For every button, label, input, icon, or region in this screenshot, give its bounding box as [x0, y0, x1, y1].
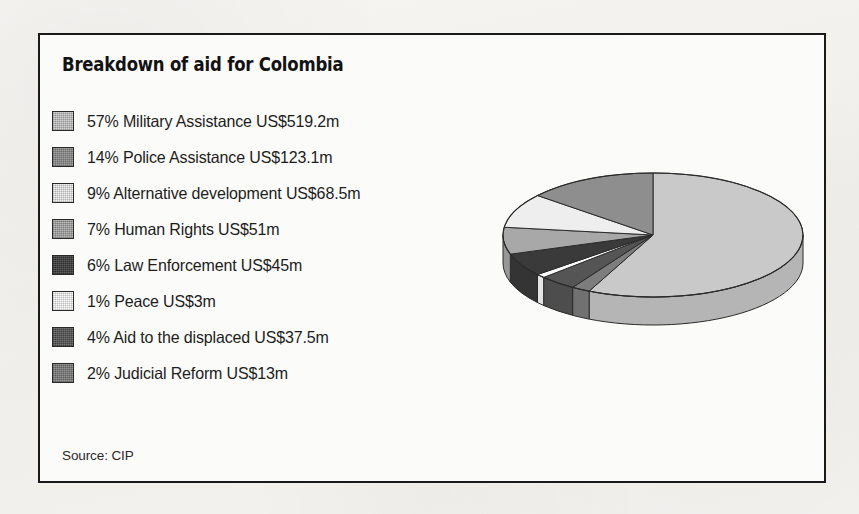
list-item[interactable]: 57% Military Assistance US$519.2m: [52, 103, 452, 139]
legend-label: 6% Law Enforcement US$45m: [87, 256, 302, 275]
figure-frame: Breakdown of aid for Colombia 57% Milita…: [38, 33, 826, 483]
pie-wall-segment: [573, 287, 590, 319]
list-item[interactable]: 4% Aid to the displaced US$37.5m: [52, 319, 452, 355]
list-item[interactable]: 14% Police Assistance US$123.1m: [52, 139, 452, 175]
pie-chart: [468, 123, 818, 353]
swatch-human-rights: [52, 219, 74, 239]
chart-legend: 57% Military Assistance US$519.2m 14% Po…: [52, 103, 452, 391]
legend-label: 7% Human Rights US$51m: [87, 220, 280, 239]
legend-label: 4% Aid to the displaced US$37.5m: [87, 328, 329, 347]
swatch-law: [52, 255, 74, 275]
legend-label: 14% Police Assistance US$123.1m: [87, 148, 332, 167]
swatch-peace: [52, 291, 74, 311]
pie-top-faces: [503, 173, 803, 297]
pie-chart-svg: [468, 123, 818, 353]
pie-wall-segment: [537, 275, 543, 306]
legend-label: 9% Alternative development US$68.5m: [87, 184, 360, 203]
source-note: Source: CIP: [62, 448, 134, 463]
list-item[interactable]: 9% Alternative development US$68.5m: [52, 175, 452, 211]
list-item[interactable]: 6% Law Enforcement US$45m: [52, 247, 452, 283]
legend-label: 2% Judicial Reform US$13m: [87, 364, 288, 383]
swatch-military: [52, 111, 74, 131]
legend-label: 57% Military Assistance US$519.2m: [87, 112, 339, 131]
swatch-police: [52, 147, 74, 167]
list-item[interactable]: 7% Human Rights US$51m: [52, 211, 452, 247]
page-title: Breakdown of aid for Colombia: [62, 53, 343, 76]
list-item[interactable]: 1% Peace US$3m: [52, 283, 452, 319]
legend-label: 1% Peace US$3m: [87, 292, 216, 311]
list-item[interactable]: 2% Judicial Reform US$13m: [52, 355, 452, 391]
swatch-judicial: [52, 363, 74, 383]
swatch-displaced: [52, 327, 74, 347]
swatch-alternative: [52, 183, 74, 203]
